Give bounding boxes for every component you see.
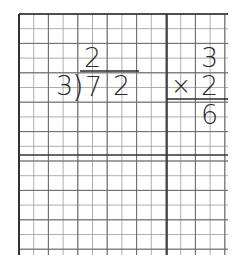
- dividend-digit-1: 7: [85, 73, 102, 100]
- multiply-operator: ×: [171, 74, 191, 98]
- product-result: 6: [201, 101, 218, 128]
- graph-paper-grid: [0, 0, 241, 271]
- division-bracket: ): [72, 72, 84, 102]
- multiplicand: 3: [201, 44, 218, 71]
- math-grid-worksheet: 2 3 ) 7 2 3 × 2 6: [0, 0, 241, 271]
- division-divisor: 3: [56, 72, 73, 99]
- multiplier: 2: [201, 72, 218, 99]
- dividend-digit-2: 2: [113, 72, 130, 99]
- division-quotient: 2: [84, 44, 101, 71]
